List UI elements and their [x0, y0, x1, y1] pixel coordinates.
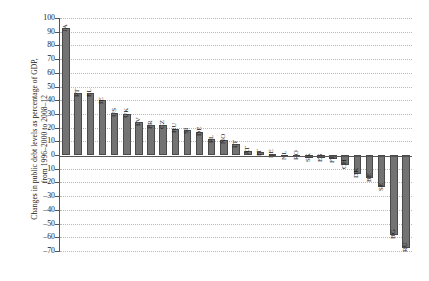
bar: [62, 28, 70, 155]
bar-column: SE: [378, 18, 386, 251]
bar-column: BE: [366, 18, 374, 251]
bar-column: IT: [257, 18, 265, 251]
y-axis-tick-label: 90: [5, 28, 55, 36]
bar-label: PL: [208, 134, 215, 142]
bar: [87, 93, 95, 155]
bar-label: RU: [402, 242, 409, 252]
bar-column: DE: [196, 18, 204, 251]
chart-figure: Changes in public debt levels as percent…: [0, 0, 429, 281]
bar: [147, 125, 155, 155]
bar-column: CZ: [159, 18, 167, 251]
y-axis-tick-label: 0: [5, 151, 55, 159]
bar-label: LV: [135, 117, 142, 126]
bar-column: HU: [172, 18, 180, 251]
bar-column: EL: [87, 18, 95, 251]
y-axis-tick-label: –30: [5, 192, 55, 200]
y-axis-tick-label: 80: [5, 42, 55, 50]
bar-label: CH: [341, 159, 348, 169]
bar-label: EL: [86, 89, 93, 98]
bar-column: FI: [329, 18, 337, 251]
y-axis-tick-label: 20: [5, 124, 55, 132]
plot-area: JAPTELIEUSUKLVFRCZHUSIDEPLNOLTATITEENLRO…: [60, 18, 412, 251]
bar-label: HU: [171, 123, 178, 133]
y-axis-tick-label: 10: [5, 137, 55, 145]
bar-column: DK: [354, 18, 362, 251]
bar-label: SI: [183, 128, 190, 134]
bar: [74, 93, 82, 155]
bar-column: IE: [99, 18, 107, 251]
y-axis-tick-label: 50: [5, 83, 55, 91]
bar-label: BE: [366, 173, 373, 182]
bar-label: JA: [62, 24, 69, 32]
bar-column: LT: [232, 18, 240, 251]
y-axis-tick-label: 70: [5, 55, 55, 63]
bar-column: AT: [244, 18, 252, 251]
y-axis-tick-label: –20: [5, 179, 55, 187]
bar-label: DE: [196, 126, 203, 136]
bar-column: SK: [305, 18, 313, 251]
bar-label: LT: [232, 140, 239, 148]
gridline: [60, 251, 412, 252]
y-axis-tick-label: 60: [5, 69, 55, 77]
bar: [402, 155, 410, 248]
bar-label: DK: [353, 168, 360, 178]
y-axis-tick-labels: 1009080706050403020100–10–20–30–40–50–60…: [0, 18, 55, 251]
bar-label: FI: [329, 157, 336, 163]
y-axis-tick-label: 40: [5, 96, 55, 104]
y-axis-tick-label: 30: [5, 110, 55, 118]
y-axis-tick-label: –10: [5, 165, 55, 173]
bar-column: JA: [62, 18, 70, 251]
y-axis-tick: [55, 251, 60, 252]
bar-column: SI: [184, 18, 192, 251]
bar-label: SE: [378, 182, 385, 190]
bar-label: BG: [390, 229, 397, 239]
bar-column: PL: [208, 18, 216, 251]
bar-label: US: [111, 107, 118, 116]
bar-column: NO: [220, 18, 228, 251]
bar-column: LV: [135, 18, 143, 251]
bar-label: SK: [305, 153, 312, 162]
bar-column: US: [111, 18, 119, 251]
bar: [390, 155, 398, 234]
bar-label: IE: [98, 97, 105, 104]
y-axis-tick-label: –40: [5, 206, 55, 214]
bar-column: RU: [402, 18, 410, 251]
bar: [123, 114, 131, 155]
bar-series: JAPTELIEUSUKLVFRCZHUSIDEPLNOLTATITEENLRO…: [60, 18, 412, 251]
bar-column: ES: [317, 18, 325, 251]
bar-column: RO: [293, 18, 301, 251]
bar-label: NO: [220, 134, 227, 144]
bar-label: FR: [147, 120, 154, 129]
bar-label: PT: [74, 89, 81, 97]
y-axis-tick-label: –70: [5, 247, 55, 255]
bar: [135, 122, 143, 155]
bar-label: AT: [244, 146, 251, 155]
bar-column: PT: [74, 18, 82, 251]
zero-baseline: [60, 156, 412, 157]
bar-column: NL: [281, 18, 289, 251]
bar: [159, 125, 167, 155]
bar-column: UK: [123, 18, 131, 251]
bar-column: FR: [147, 18, 155, 251]
bar-label: UK: [123, 108, 130, 118]
bar-label: CZ: [159, 120, 166, 129]
bar: [111, 113, 119, 155]
y-axis-tick-label: –50: [5, 220, 55, 228]
y-axis-tick-label: –60: [5, 233, 55, 241]
bar-column: CH: [341, 18, 349, 251]
bar: [184, 130, 192, 155]
bar-column: EE: [269, 18, 277, 251]
bar-column: BG: [390, 18, 398, 251]
bar: [99, 100, 107, 155]
y-axis-tick-label: 100: [5, 14, 55, 22]
